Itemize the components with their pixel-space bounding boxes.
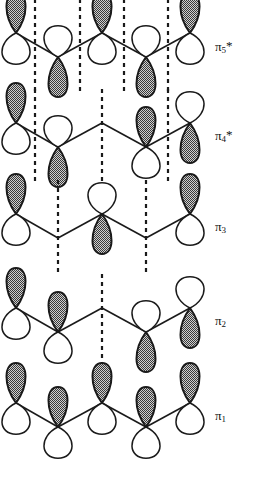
mo-label-symbol: π (215, 39, 222, 54)
mo-row-pi3 (2, 174, 204, 272)
carbon-chain-backbone (16, 308, 190, 332)
orbital-lobe-top-shaded (6, 83, 25, 123)
carbon-chain-backbone (16, 123, 190, 147)
orbital-lobe-top-unshaded (176, 92, 204, 123)
orbital-lobe-top-shaded (48, 292, 67, 332)
mo-row-pi5star (2, 0, 204, 97)
orbital-lobe-top-shaded (6, 174, 25, 214)
orbital-lobe-top-unshaded (88, 183, 116, 214)
p-orbital-atom-4 (132, 26, 160, 97)
orbital-lobe-top-unshaded (176, 277, 204, 308)
mo-diagram: π5*π4*π3π2π1 (0, 0, 262, 478)
mo-label-symbol: π (215, 313, 222, 328)
p-orbital-atom-5 (176, 0, 204, 64)
orbital-lobe-top-shaded (6, 0, 25, 33)
orbital-lobe-bottom-shaded (92, 214, 111, 254)
p-orbital-atom-2 (44, 26, 72, 97)
p-orbital-atom-5 (176, 174, 204, 245)
p-orbital-atom-5 (176, 277, 204, 348)
p-orbital-atom-3 (88, 183, 116, 254)
mo-label-pi3: π3 (215, 219, 226, 235)
orbital-lobe-bottom-unshaded (132, 147, 160, 178)
orbital-lobe-top-shaded (136, 107, 155, 147)
orbital-lobe-bottom-unshaded (2, 403, 30, 434)
p-orbital-atom-1 (2, 83, 30, 154)
orbital-lobe-bottom-unshaded (2, 33, 30, 64)
p-orbital-atom-4 (132, 301, 160, 372)
mo-label-pi4star: π4* (215, 127, 233, 144)
p-orbital-atom-1 (2, 174, 30, 245)
orbital-lobe-top-shaded (180, 363, 199, 403)
mo-label-pi2: π2 (215, 313, 226, 329)
p-orbital-atom-2 (44, 387, 72, 458)
mo-label-antibonding-asterisk: * (226, 38, 233, 53)
p-orbital-atom-2 (44, 292, 72, 363)
mo-label-symbol: π (215, 219, 222, 234)
orbital-lobe-top-shaded (180, 174, 199, 214)
p-orbital-atom-1 (2, 268, 30, 339)
p-orbital-atom-4 (132, 107, 160, 178)
p-orbital-atom-3 (88, 363, 116, 434)
mo-label-symbol: π (215, 128, 222, 143)
mo-row-pi4star (2, 83, 204, 187)
mo-label-subscript: 1 (222, 414, 227, 424)
orbital-lobe-top-shaded (6, 268, 25, 308)
orbital-lobe-bottom-unshaded (2, 214, 30, 245)
orbital-lobe-top-shaded (136, 387, 155, 427)
orbital-lobe-bottom-shaded (180, 308, 199, 348)
orbital-lobe-bottom-unshaded (2, 123, 30, 154)
mo-row-pi2 (2, 268, 204, 372)
orbital-lobe-bottom-unshaded (44, 332, 72, 363)
p-orbital-atom-1 (2, 363, 30, 434)
mo-label-subscript: 2 (222, 319, 227, 329)
p-orbital-atom-5 (176, 92, 204, 163)
mo-label-antibonding-asterisk: * (226, 127, 233, 142)
orbital-lobe-top-shaded (180, 0, 199, 33)
p-orbital-atom-1 (2, 0, 30, 64)
p-orbital-atom-2 (44, 116, 72, 187)
mo-diagram-canvas (0, 0, 262, 478)
orbital-lobe-bottom-unshaded (2, 308, 30, 339)
mo-label-symbol: π (215, 408, 222, 423)
mo-row-pi1 (2, 363, 204, 458)
p-orbital-atom-4 (132, 387, 160, 458)
p-orbital-atom-5 (176, 363, 204, 434)
orbital-lobe-bottom-unshaded (44, 427, 72, 458)
mo-label-subscript: 3 (222, 225, 227, 235)
orbital-lobe-top-shaded (92, 363, 111, 403)
orbital-lobe-bottom-shaded (48, 57, 67, 97)
orbital-lobe-bottom-unshaded (132, 427, 160, 458)
orbital-lobe-top-shaded (92, 0, 111, 33)
mo-label-pi1: π1 (215, 408, 226, 424)
mo-label-pi5star: π5* (215, 38, 233, 55)
orbital-lobe-bottom-shaded (136, 57, 155, 97)
orbital-lobe-top-shaded (6, 363, 25, 403)
orbital-lobe-top-shaded (48, 387, 67, 427)
orbital-lobe-bottom-shaded (180, 123, 199, 163)
orbital-lobe-bottom-shaded (136, 332, 155, 372)
p-orbital-atom-3 (88, 0, 116, 64)
